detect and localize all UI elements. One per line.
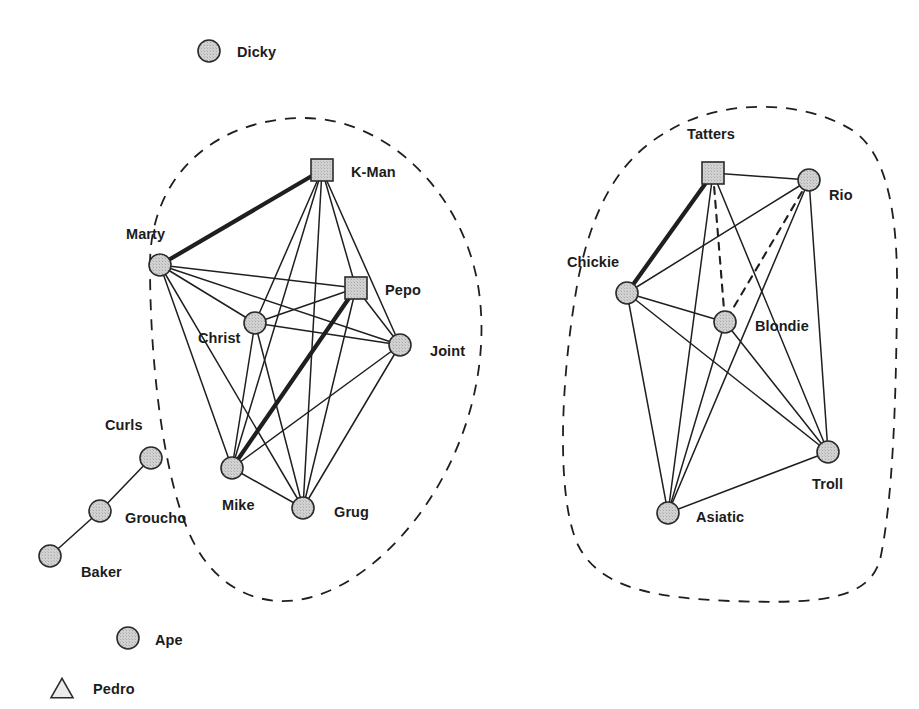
node-label-rio: Rio: [829, 187, 853, 203]
edge-joint-grug: [303, 345, 400, 508]
node-label-joint: Joint: [430, 343, 465, 359]
node-marty[interactable]: [149, 254, 171, 276]
edge-blondie-asiatic: [668, 322, 725, 513]
edge-pepo-christ: [255, 288, 356, 323]
group-boundary-right: [563, 107, 897, 602]
node-dicky[interactable]: [198, 40, 220, 62]
node-label-pepo: Pepo: [385, 282, 421, 298]
edge-chickie-blondie: [627, 293, 725, 322]
edge-marty-christ: [160, 265, 255, 323]
node-label-dicky: Dicky: [237, 44, 276, 60]
node-mike[interactable]: [221, 457, 243, 479]
network-graph: DickyK-ManMartyPepoChristJointMikeGrugCu…: [0, 0, 919, 709]
node-label-troll: Troll: [812, 476, 843, 492]
node-curls[interactable]: [140, 447, 162, 469]
node-groucho[interactable]: [89, 500, 111, 522]
node-label-mike: Mike: [222, 497, 255, 513]
edge-rio-asiatic: [668, 180, 809, 513]
node-label-christ: Christ: [198, 330, 241, 346]
node-label-pedro: Pedro: [93, 681, 135, 697]
node-baker[interactable]: [39, 545, 61, 567]
edges-layer: [50, 170, 828, 556]
edge-blondie-troll: [725, 322, 828, 452]
edge-kman-pepo: [322, 170, 356, 288]
group-boundaries-layer: [150, 107, 897, 602]
edge-chickie-asiatic: [627, 293, 668, 513]
edge-marty-pepo: [160, 265, 356, 288]
edge-troll-asiatic: [668, 452, 828, 513]
node-label-kman: K-Man: [351, 164, 396, 180]
node-label-groucho: Groucho: [125, 510, 186, 526]
node-asiatic[interactable]: [657, 502, 679, 524]
node-tatters[interactable]: [702, 162, 724, 184]
node-grug[interactable]: [292, 497, 314, 519]
node-kman[interactable]: [311, 159, 333, 181]
node-chickie[interactable]: [616, 282, 638, 304]
edge-tatters-blondie: [713, 173, 725, 322]
node-label-grug: Grug: [334, 504, 369, 520]
node-label-marty: Marty: [126, 226, 165, 242]
edge-kman-christ: [255, 170, 322, 323]
node-troll[interactable]: [817, 441, 839, 463]
node-blondie[interactable]: [714, 311, 736, 333]
node-label-baker: Baker: [81, 564, 122, 580]
node-label-asiatic: Asiatic: [696, 509, 744, 525]
node-pepo[interactable]: [345, 277, 367, 299]
edge-rio-chickie: [627, 180, 809, 293]
edge-christ-grug: [255, 323, 303, 508]
edge-rio-blondie: [725, 180, 809, 322]
node-label-chickie: Chickie: [567, 254, 619, 270]
edge-tatters-rio: [713, 173, 809, 180]
node-ape[interactable]: [117, 627, 139, 649]
node-label-curls: Curls: [105, 417, 143, 433]
node-joint[interactable]: [389, 334, 411, 356]
edge-marty-mike: [160, 265, 232, 468]
node-pedro[interactable]: [51, 678, 73, 697]
node-christ[interactable]: [244, 312, 266, 334]
node-label-ape: Ape: [155, 632, 183, 648]
node-label-tatters: Tatters: [687, 126, 735, 142]
node-rio[interactable]: [798, 169, 820, 191]
edge-joint-mike: [232, 345, 400, 468]
node-label-blondie: Blondie: [755, 318, 809, 334]
diagram-canvas: DickyK-ManMartyPepoChristJointMikeGrugCu…: [0, 0, 919, 709]
